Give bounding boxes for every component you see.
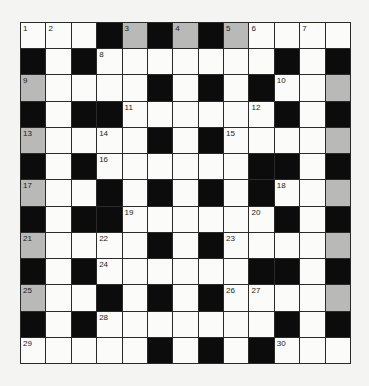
white-cell[interactable] xyxy=(224,102,248,127)
white-cell[interactable]: 8 xyxy=(97,49,121,74)
white-cell[interactable] xyxy=(300,338,324,363)
white-cell[interactable] xyxy=(123,154,147,179)
shaded-cell[interactable]: 9 xyxy=(21,75,45,100)
white-cell[interactable] xyxy=(148,207,172,232)
white-cell[interactable]: 11 xyxy=(123,102,147,127)
white-cell[interactable] xyxy=(72,338,96,363)
white-cell[interactable] xyxy=(199,154,223,179)
white-cell[interactable] xyxy=(224,49,248,74)
white-cell[interactable] xyxy=(300,180,324,205)
shaded-cell[interactable]: 13 xyxy=(21,128,45,153)
white-cell[interactable] xyxy=(173,102,197,127)
white-cell[interactable] xyxy=(123,49,147,74)
white-cell[interactable] xyxy=(46,154,70,179)
white-cell[interactable] xyxy=(300,75,324,100)
white-cell[interactable] xyxy=(97,338,121,363)
white-cell[interactable] xyxy=(224,338,248,363)
white-cell[interactable] xyxy=(249,312,273,337)
shaded-cell[interactable] xyxy=(326,233,350,258)
white-cell[interactable]: 10 xyxy=(275,75,299,100)
white-cell[interactable] xyxy=(97,75,121,100)
white-cell[interactable] xyxy=(173,312,197,337)
white-cell[interactable]: 27 xyxy=(249,285,273,310)
white-cell[interactable] xyxy=(148,154,172,179)
white-cell[interactable] xyxy=(46,128,70,153)
white-cell[interactable] xyxy=(72,75,96,100)
white-cell[interactable] xyxy=(199,312,223,337)
white-cell[interactable] xyxy=(72,23,96,48)
white-cell[interactable]: 12 xyxy=(249,102,273,127)
white-cell[interactable] xyxy=(199,102,223,127)
white-cell[interactable] xyxy=(224,312,248,337)
shaded-cell[interactable]: 3 xyxy=(123,23,147,48)
white-cell[interactable] xyxy=(148,259,172,284)
white-cell[interactable] xyxy=(300,207,324,232)
white-cell[interactable] xyxy=(224,259,248,284)
white-cell[interactable] xyxy=(199,259,223,284)
white-cell[interactable] xyxy=(173,128,197,153)
shaded-cell[interactable]: 5 xyxy=(224,23,248,48)
shaded-cell[interactable]: 17 xyxy=(21,180,45,205)
white-cell[interactable] xyxy=(46,49,70,74)
white-cell[interactable] xyxy=(173,338,197,363)
white-cell[interactable]: 30 xyxy=(275,338,299,363)
shaded-cell[interactable]: 4 xyxy=(173,23,197,48)
white-cell[interactable] xyxy=(300,49,324,74)
shaded-cell[interactable] xyxy=(326,180,350,205)
white-cell[interactable]: 16 xyxy=(97,154,121,179)
white-cell[interactable] xyxy=(275,285,299,310)
white-cell[interactable]: 24 xyxy=(97,259,121,284)
white-cell[interactable]: 20 xyxy=(249,207,273,232)
white-cell[interactable] xyxy=(173,49,197,74)
white-cell[interactable] xyxy=(326,338,350,363)
white-cell[interactable] xyxy=(46,102,70,127)
white-cell[interactable]: 26 xyxy=(224,285,248,310)
white-cell[interactable]: 29 xyxy=(21,338,45,363)
white-cell[interactable]: 28 xyxy=(97,312,121,337)
white-cell[interactable] xyxy=(72,233,96,258)
white-cell[interactable] xyxy=(148,49,172,74)
white-cell[interactable] xyxy=(46,338,70,363)
white-cell[interactable]: 19 xyxy=(123,207,147,232)
white-cell[interactable] xyxy=(123,128,147,153)
shaded-cell[interactable]: 21 xyxy=(21,233,45,258)
white-cell[interactable] xyxy=(173,207,197,232)
white-cell[interactable] xyxy=(123,75,147,100)
shaded-cell[interactable] xyxy=(326,128,350,153)
white-cell[interactable] xyxy=(249,128,273,153)
white-cell[interactable] xyxy=(224,180,248,205)
white-cell[interactable] xyxy=(275,233,299,258)
white-cell[interactable] xyxy=(46,180,70,205)
white-cell[interactable] xyxy=(300,128,324,153)
white-cell[interactable] xyxy=(148,102,172,127)
white-cell[interactable] xyxy=(46,233,70,258)
white-cell[interactable] xyxy=(46,75,70,100)
white-cell[interactable] xyxy=(123,233,147,258)
white-cell[interactable] xyxy=(148,312,172,337)
white-cell[interactable]: 23 xyxy=(224,233,248,258)
white-cell[interactable] xyxy=(123,180,147,205)
white-cell[interactable] xyxy=(275,128,299,153)
white-cell[interactable]: 18 xyxy=(275,180,299,205)
white-cell[interactable] xyxy=(46,312,70,337)
white-cell[interactable]: 14 xyxy=(97,128,121,153)
white-cell[interactable] xyxy=(72,285,96,310)
shaded-cell[interactable] xyxy=(326,285,350,310)
white-cell[interactable] xyxy=(123,259,147,284)
white-cell[interactable] xyxy=(173,75,197,100)
white-cell[interactable]: 22 xyxy=(97,233,121,258)
white-cell[interactable] xyxy=(173,233,197,258)
white-cell[interactable] xyxy=(72,128,96,153)
white-cell[interactable] xyxy=(275,23,299,48)
white-cell[interactable] xyxy=(199,49,223,74)
white-cell[interactable] xyxy=(46,207,70,232)
white-cell[interactable] xyxy=(249,49,273,74)
shaded-cell[interactable]: 25 xyxy=(21,285,45,310)
white-cell[interactable] xyxy=(300,154,324,179)
white-cell[interactable] xyxy=(123,338,147,363)
white-cell[interactable] xyxy=(249,233,273,258)
white-cell[interactable]: 7 xyxy=(300,23,324,48)
white-cell[interactable]: 2 xyxy=(46,23,70,48)
white-cell[interactable] xyxy=(173,154,197,179)
white-cell[interactable] xyxy=(173,285,197,310)
